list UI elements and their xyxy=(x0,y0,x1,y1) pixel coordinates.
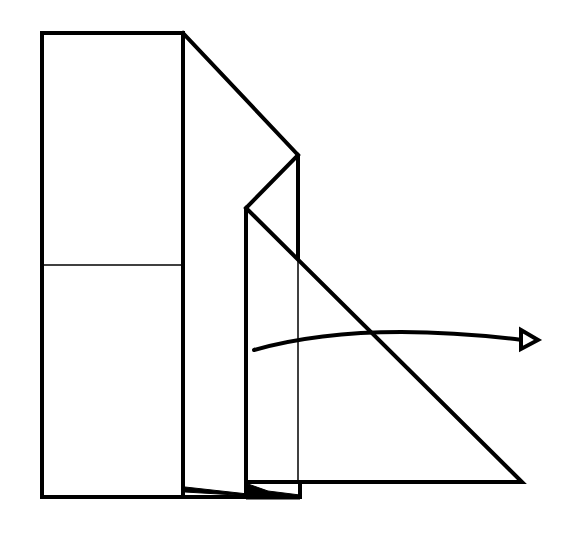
arrow-head-icon xyxy=(521,330,538,349)
left-panel xyxy=(42,33,183,497)
upper-flap xyxy=(183,33,298,482)
bottom-flap-edges xyxy=(183,482,300,499)
triangle-flap xyxy=(246,208,522,482)
origami-diagram xyxy=(0,0,578,541)
fold-arrow xyxy=(254,330,538,350)
